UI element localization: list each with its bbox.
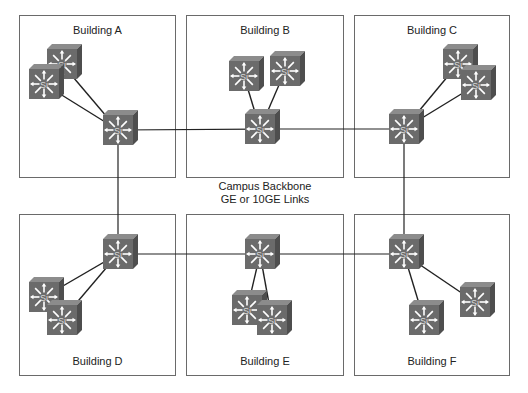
switch-label: Si — [400, 250, 408, 260]
backbone-link-a-core-to-b-core — [118, 129, 260, 130]
layer3-switch-icon: Si — [389, 109, 424, 144]
switch-label: Si — [240, 72, 248, 82]
switch-label: Si — [256, 125, 264, 135]
layer3-switch-icon: Si — [409, 300, 444, 335]
layer3-switch-icon: Si — [103, 234, 138, 269]
switch-label: Si — [58, 316, 66, 326]
backbone-label-line1: Campus Backbone — [186, 180, 344, 193]
layer3-switch-icon: Si — [29, 64, 64, 99]
layer3-switch-icon: Si — [229, 56, 264, 91]
switch-label: Si — [256, 250, 264, 260]
switch-label: Si — [114, 250, 122, 260]
layer3-switch-icon: Si — [103, 110, 138, 145]
switch-label: Si — [400, 125, 408, 135]
switch-label: Si — [40, 293, 48, 303]
switch-label: Si — [114, 126, 122, 136]
backbone-label: Campus Backbone GE or 10GE Links — [186, 180, 344, 206]
switch-label: Si — [243, 306, 251, 316]
switch-label: Si — [420, 316, 428, 326]
layer3-switch-icon: Si — [460, 282, 495, 317]
layer3-switch-icon: Si — [257, 300, 292, 335]
layer3-switch-icon: Si — [245, 234, 280, 269]
switch-label: Si — [454, 60, 462, 70]
layer3-switch-icon: Si — [47, 300, 82, 335]
switch-label: Si — [40, 80, 48, 90]
switch-label: Si — [281, 67, 289, 77]
switch-label: Si — [268, 316, 276, 326]
backbone-label-line2: GE or 10GE Links — [186, 193, 344, 206]
layer3-switch-icon: Si — [245, 109, 280, 144]
layer3-switch-icon: Si — [270, 51, 305, 86]
switch-label: Si — [471, 298, 479, 308]
layer3-switch-icon: Si — [389, 234, 424, 269]
switch-label: Si — [472, 81, 480, 91]
layer3-switch-icon: Si — [461, 65, 496, 100]
